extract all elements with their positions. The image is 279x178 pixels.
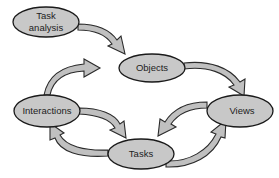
node-objects: Objects [119,54,185,82]
arrow-task-analysis-to-objects [78,24,125,54]
arrow-objects-to-views [184,62,245,96]
node-interactions-label: Interactions [22,105,71,116]
node-objects-label: Objects [136,62,168,73]
node-views: Views [207,95,273,127]
node-task-analysis: Task analysis [13,7,79,37]
node-interactions: Interactions [14,95,80,127]
node-views-label: Views [229,105,254,116]
node-task-analysis-label-line2: analysis [29,22,64,33]
node-tasks: Tasks [108,139,174,169]
cycle-diagram: Task analysis Objects Views Interactions… [0,0,279,178]
arrow-tasks-to-interactions [50,123,108,156]
node-tasks-label: Tasks [129,148,154,159]
arrow-interactions-to-tasks [79,108,126,138]
arrow-views-to-tasks [158,102,207,136]
node-task-analysis-label-line1: Task [36,10,56,21]
arrow-interactions-to-objects [44,59,100,95]
